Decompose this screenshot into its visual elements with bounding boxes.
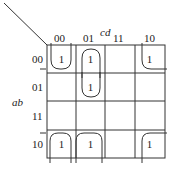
row-variable-label: ab xyxy=(12,97,23,108)
row-label: 00 xyxy=(32,54,43,65)
cell: 1 xyxy=(47,45,76,73)
row-label: 11 xyxy=(32,111,43,122)
cell xyxy=(105,101,134,129)
cell: 1 xyxy=(135,45,164,73)
cell: 1 xyxy=(76,130,105,158)
cell: 1 xyxy=(135,130,164,158)
row-label: 10 xyxy=(32,139,43,150)
col-variable-label: cd xyxy=(100,27,110,38)
cell xyxy=(47,101,76,129)
cell xyxy=(135,73,164,101)
col-label: 01 xyxy=(83,33,94,44)
cell: 1 xyxy=(47,130,76,158)
col-label: 11 xyxy=(113,33,124,44)
row-label: 01 xyxy=(32,82,43,93)
cell xyxy=(105,130,134,158)
cell xyxy=(135,101,164,129)
cell xyxy=(105,45,134,73)
col-label: 00 xyxy=(54,33,65,44)
col-label: 10 xyxy=(144,33,155,44)
cell: 1 xyxy=(76,73,105,101)
cell xyxy=(105,73,134,101)
cell xyxy=(47,73,76,101)
cell: 1 xyxy=(76,45,105,73)
cell xyxy=(76,101,105,129)
